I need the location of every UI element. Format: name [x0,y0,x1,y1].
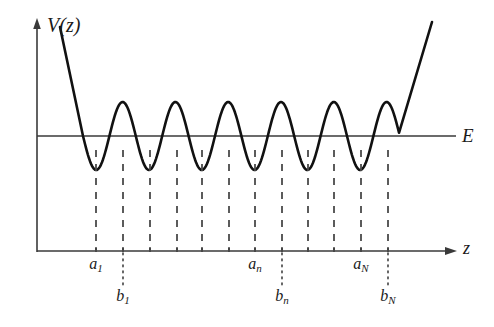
energy-level-label: E [462,126,474,145]
turning-point-label-subscript: N [361,262,368,274]
turning-point-label-base: b [380,287,388,304]
turning-point-label-subscript: 1 [124,294,130,306]
x-axis-group [37,247,457,255]
turning-point-label-base: b [116,287,124,304]
turning-point-label-base: a [248,255,256,272]
turning-point-label-a-n: an [248,256,262,272]
turning-point-label-subscript: n [283,294,289,306]
potential-curve [60,22,432,170]
potential-well-figure: V(z) E z a1b1anbnaNbN [0,0,494,327]
turning-point-label-subscript: N [388,294,395,306]
turning-point-label-b-N: bN [380,288,395,304]
turning-point-label-b-1: b1 [116,288,130,304]
turning-point-label-base: b [275,287,283,304]
y-axis-label: V(z) [47,15,80,35]
x-axis-label: z [463,239,470,257]
turning-point-label-b-n: bn [275,288,289,304]
turning-point-label-a-1: a1 [89,256,103,272]
y-axis-group [33,18,41,252]
turning-point-label-subscript: n [256,262,262,274]
y-axis-arrowhead [33,18,41,29]
x-axis-arrowhead [445,247,457,255]
turning-point-label-base: a [353,255,361,272]
potential-plot-svg [0,0,494,327]
turning-point-label-subscript: 1 [97,262,103,274]
turning-point-dashes [96,150,388,250]
turning-point-label-a-N: aN [353,256,368,272]
turning-point-label-base: a [89,255,97,272]
